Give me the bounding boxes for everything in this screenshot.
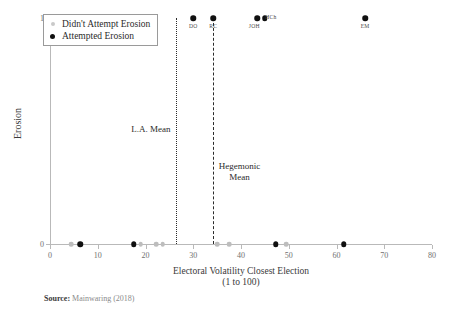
legend-item-label: Attempted Erosion — [62, 31, 134, 41]
source-label: Source: — [44, 294, 70, 303]
data-point — [284, 242, 289, 247]
legend: Didn't Attempt Erosion Attempted Erosion — [43, 14, 158, 46]
data-point-label: RC — [209, 23, 217, 29]
x-tick — [432, 245, 433, 249]
black-dot-icon — [50, 34, 55, 39]
data-point — [160, 242, 165, 247]
data-point — [77, 241, 83, 247]
data-point — [273, 241, 279, 247]
data-point — [215, 242, 220, 247]
x-tick — [289, 245, 290, 249]
x-tick-label: 40 — [237, 251, 245, 260]
erosion-scatter-chart: 01020304050607080 01 L.A. MeanHegemonic … — [0, 0, 462, 314]
reference-line-label: L.A. Mean — [131, 124, 170, 135]
x-tick — [193, 245, 194, 249]
legend-item-attempted-erosion: Attempted Erosion — [49, 30, 150, 42]
x-tick — [146, 245, 147, 249]
x-tick-label: 20 — [142, 251, 150, 260]
data-point — [341, 241, 347, 247]
data-point-label: DO — [189, 23, 197, 29]
x-tick — [98, 245, 99, 249]
x-tick — [384, 245, 385, 249]
x-tick — [241, 245, 242, 249]
x-tick-label: 0 — [48, 251, 52, 260]
x-axis-title: Electoral Volatility Closest Election (1… — [50, 266, 432, 288]
reference-line-hegemonic-mean — [213, 18, 214, 244]
data-point — [362, 15, 368, 21]
source-text: Mainwaring (2018) — [72, 294, 134, 303]
data-point — [138, 242, 143, 247]
source-note: Source: Mainwaring (2018) — [44, 294, 135, 303]
data-point — [154, 242, 159, 247]
x-tick-label: 60 — [333, 251, 341, 260]
x-tick — [50, 245, 51, 249]
y-axis-line — [50, 18, 51, 244]
data-point-label: EM — [361, 23, 370, 29]
data-point-label: HCh — [265, 14, 276, 20]
data-point-label: JOH — [249, 23, 260, 29]
y-tick-label: 0 — [34, 240, 44, 249]
light-gray-dot-icon — [51, 22, 55, 26]
x-axis-title-sub: (1 to 100) — [222, 277, 259, 287]
data-point — [254, 15, 260, 21]
legend-item-didnt-attempt-erosion: Didn't Attempt Erosion — [49, 18, 150, 30]
data-point — [191, 15, 197, 21]
data-point — [131, 241, 137, 247]
x-tick-label: 30 — [189, 251, 197, 260]
reference-line-label: Hegemonic Mean — [219, 161, 260, 183]
x-tick-label: 70 — [380, 251, 388, 260]
reference-line-l-a-mean — [176, 18, 177, 244]
data-point — [211, 15, 217, 21]
x-tick-label: 10 — [94, 251, 102, 260]
y-axis-title: Erosion — [12, 69, 23, 179]
legend-item-label: Didn't Attempt Erosion — [62, 19, 150, 29]
data-point — [227, 242, 232, 247]
x-tick — [337, 245, 338, 249]
data-point — [69, 242, 74, 247]
x-axis-title-main: Electoral Volatility Closest Election — [173, 266, 309, 276]
y-tick — [46, 244, 50, 245]
x-tick-label: 50 — [285, 251, 293, 260]
x-tick-label: 80 — [428, 251, 436, 260]
